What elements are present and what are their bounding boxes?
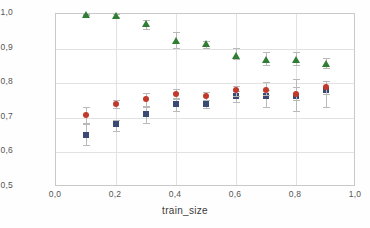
marker-circle	[143, 96, 149, 102]
error-bar-cap-lower	[203, 100, 210, 101]
x-axis-tick-label: 0,6	[215, 189, 255, 199]
error-bar-cap-lower	[113, 108, 120, 109]
error-bar-cap-upper	[293, 79, 300, 80]
marker-circle	[203, 93, 209, 99]
error-bar-cap-upper	[143, 93, 150, 94]
y-axis-tick-label: 0,9	[0, 42, 13, 52]
y-axis-tick-label: 1,0	[0, 7, 13, 17]
error-bar-cap-upper	[263, 52, 270, 53]
marker-triangle	[172, 37, 180, 44]
marker-circle	[113, 101, 119, 107]
x-axis-tick-label: 1,0	[335, 189, 370, 199]
marker-triangle	[262, 56, 270, 63]
error-bar-cap-lower	[143, 123, 150, 124]
error-bar-cap-lower	[293, 111, 300, 112]
marker-triangle	[292, 56, 300, 63]
marker-circle	[83, 112, 89, 118]
x-axis-tick-label: 0,2	[95, 189, 135, 199]
x-axis-tick-label: 0,8	[275, 189, 315, 199]
marker-triangle	[322, 60, 330, 67]
error-bar-cap-lower	[113, 131, 120, 132]
y-axis-tick-label: 0,8	[0, 76, 13, 86]
error-bar-cap-lower	[173, 111, 180, 112]
error-bar-cap-lower	[263, 65, 270, 66]
error-bar-cap-upper	[143, 107, 150, 108]
marker-circle	[263, 87, 269, 93]
error-bar-cap-lower	[83, 145, 90, 146]
error-bar-cap-upper	[173, 32, 180, 33]
error-bar-cap-lower	[83, 124, 90, 125]
error-bar-cap-lower	[263, 107, 270, 108]
marker-triangle	[232, 52, 240, 59]
chart-figure: AUC-ROC train_size 0,50,60,70,80,91,0 0,…	[0, 0, 370, 228]
error-bar-cap-upper	[113, 120, 120, 121]
error-bar-cap-lower	[323, 107, 330, 108]
gridline-horizontal	[56, 152, 354, 153]
marker-triangle	[202, 40, 210, 47]
marker-square	[173, 101, 179, 107]
marker-square	[203, 101, 209, 107]
marker-circle	[323, 84, 329, 90]
x-axis-label: train_size	[0, 205, 370, 216]
error-bar-cap-lower	[173, 48, 180, 49]
error-bar-cap-lower	[293, 65, 300, 66]
x-axis-tick-label: 0,4	[155, 189, 195, 199]
marker-circle	[173, 91, 179, 97]
y-axis-tick-label: 0,7	[0, 111, 13, 121]
error-bar-cap-lower	[233, 102, 240, 103]
error-bar-cap-lower	[263, 95, 270, 96]
error-bar-cap-lower	[203, 108, 210, 109]
error-bar-cap-upper	[233, 86, 240, 87]
y-axis-tick-label: 0,6	[0, 145, 13, 155]
marker-triangle	[142, 20, 150, 27]
error-bar-cap-upper	[173, 89, 180, 90]
error-bar-line	[296, 79, 297, 100]
error-bar-cap-upper	[323, 81, 330, 82]
plot-area	[55, 13, 355, 186]
error-bar-cap-upper	[323, 58, 330, 59]
error-bar-cap-lower	[233, 96, 240, 97]
error-bar-cap-lower	[173, 98, 180, 99]
gridline-horizontal	[56, 118, 354, 119]
marker-triangle	[112, 12, 120, 19]
error-bar-cap-lower	[143, 29, 150, 30]
marker-triangle	[82, 11, 90, 18]
marker-square	[83, 132, 89, 138]
error-bar-cap-lower	[203, 48, 210, 49]
marker-square	[113, 121, 119, 127]
error-bar-cap-lower	[323, 94, 330, 95]
x-axis-tick-label: 0,0	[35, 189, 75, 199]
error-bar-cap-upper	[263, 82, 270, 83]
error-bar-cap-lower	[293, 100, 300, 101]
y-axis-tick-label: 0,5	[0, 180, 13, 190]
gridline-horizontal	[56, 83, 354, 84]
error-bar-cap-upper	[293, 52, 300, 53]
error-bar-cap-upper	[83, 107, 90, 108]
marker-square	[143, 111, 149, 117]
error-bar-cap-lower	[323, 68, 330, 69]
error-bar-cap-lower	[233, 59, 240, 60]
error-bar-cap-lower	[143, 106, 150, 107]
error-bar-cap-upper	[233, 48, 240, 49]
